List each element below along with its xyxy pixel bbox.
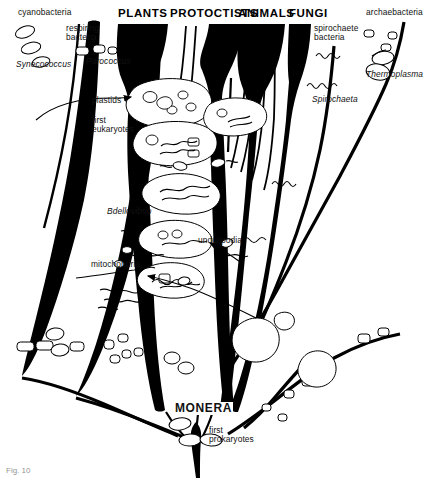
organelle-vacuole-1 bbox=[178, 91, 188, 99]
figure-root: PLANTS PROTOCTISTS ANIMALS FUNGI MONERA … bbox=[0, 0, 437, 478]
trunk-cyanobacteria bbox=[22, 21, 100, 377]
organelle-nucleus-1 bbox=[146, 135, 158, 145]
bacterium-cyanobacteria-3 bbox=[31, 55, 51, 69]
bacterium-right-1 bbox=[164, 352, 180, 364]
organelle-vesicle-4 bbox=[172, 230, 182, 238]
bacterium-respiring-2 bbox=[93, 45, 105, 53]
symbiogenesis-tree-diagram bbox=[0, 0, 437, 478]
bacterium-lower-left-2 bbox=[36, 341, 53, 350]
bacterium-respiring-1 bbox=[76, 47, 89, 55]
cell-bdellovibrio-host bbox=[139, 220, 212, 258]
bacterium-root-3 bbox=[200, 433, 223, 447]
arrow-mitochondria bbox=[76, 269, 144, 278]
bacterium-mid-3 bbox=[118, 334, 128, 342]
organelle-nucleus-2 bbox=[217, 109, 227, 117]
bacterium-right-2 bbox=[178, 362, 194, 374]
spirochaete-squiggle-2 bbox=[307, 84, 337, 89]
bacterium-mid-4 bbox=[122, 350, 131, 358]
bacterium-right-3 bbox=[284, 390, 294, 398]
cell-animal-ancestor bbox=[204, 98, 267, 136]
organelle-vacuole-2 bbox=[186, 103, 196, 111]
bacterium-archaea-1 bbox=[364, 30, 374, 37]
bacterium-mid-5 bbox=[134, 348, 143, 356]
free-bacterium-4 bbox=[122, 247, 132, 254]
bacterium-right-8 bbox=[278, 414, 287, 421]
organelle-golgi-1 bbox=[157, 97, 173, 109]
free-bacterium-3 bbox=[114, 261, 124, 268]
organelle-plastid-1 bbox=[143, 92, 157, 103]
bacterium-right-6 bbox=[378, 328, 389, 336]
bacterium-mid-1 bbox=[104, 340, 114, 349]
bacterium-root-1 bbox=[168, 417, 191, 432]
bacterium-right-7 bbox=[262, 404, 271, 411]
bacterium-cyanobacteria-2 bbox=[20, 40, 42, 56]
cell-first-eukaryote bbox=[133, 121, 217, 165]
cell-amoeboid-1 bbox=[142, 174, 220, 215]
bacterium-respiring-3 bbox=[108, 47, 117, 54]
bacterium-lower-left-3 bbox=[45, 327, 64, 341]
spirochaete-squiggle-3 bbox=[272, 182, 296, 187]
cell-large-round-1 bbox=[232, 318, 279, 362]
figure-caption: Fig. 10 bbox=[6, 466, 30, 475]
bacterium-mid-2 bbox=[110, 355, 120, 363]
bacterium-right-blob-1 bbox=[274, 312, 294, 330]
spirochaete-squiggle-1 bbox=[316, 54, 340, 59]
bacterium-lower-left-5 bbox=[70, 342, 84, 351]
bacterium-archaea-2 bbox=[388, 32, 397, 39]
cell-large-round-2 bbox=[298, 351, 336, 387]
bacterium-cyanobacteria-1 bbox=[14, 23, 37, 40]
bacterium-lower-left-1 bbox=[17, 342, 34, 351]
organelle-vesicle-3 bbox=[158, 231, 168, 239]
bacterium-right-5 bbox=[358, 334, 370, 343]
